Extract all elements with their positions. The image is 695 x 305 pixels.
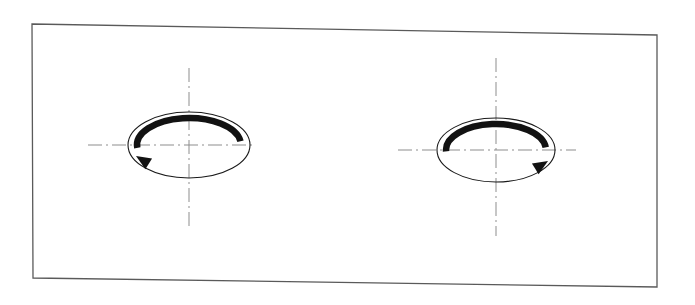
left-rotation-symbol [88, 68, 256, 228]
right-rotation-symbol [398, 58, 576, 236]
figure-canvas: Rotation direction symbols counter-clock… [0, 0, 695, 305]
outer-border-rectangle [32, 24, 657, 287]
left-arrowhead-icon [136, 156, 152, 169]
rotation-direction-diagram [0, 0, 695, 305]
